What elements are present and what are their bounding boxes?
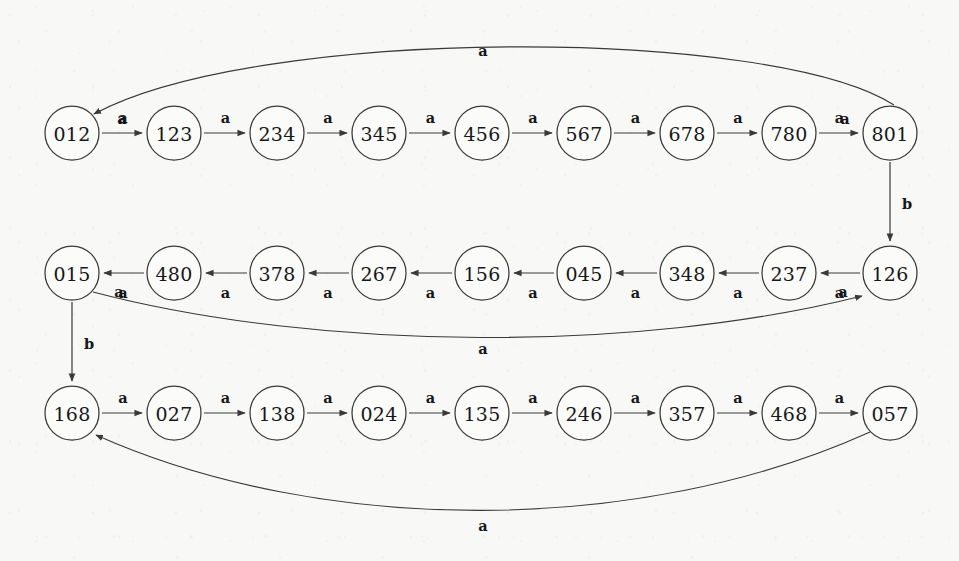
state-node-378[interactable]: 378 (250, 246, 304, 300)
state-node-label: 168 (54, 403, 91, 425)
wrap-edge-801-to-012 (94, 47, 894, 114)
state-node-567[interactable]: 567 (557, 106, 611, 160)
state-node-label: 045 (566, 263, 603, 285)
wrap-edge-label-bottom: a (478, 517, 488, 534)
state-node-label: 126 (872, 263, 909, 285)
transition-label-a: a (221, 389, 231, 406)
state-node-label: 156 (464, 263, 501, 285)
state-diagram-svg: 0121232343454565676787808010154803782671… (0, 0, 959, 561)
state-node-357[interactable]: 357 (660, 386, 714, 440)
state-node-label: 123 (156, 123, 193, 145)
wrap-edge-label-middle: a (478, 340, 488, 357)
transition-label-a: a (426, 389, 436, 406)
transition-label-a: a (118, 389, 128, 406)
state-node-168[interactable]: 168 (45, 386, 99, 440)
state-node-234[interactable]: 234 (250, 106, 304, 160)
state-node-468[interactable]: 468 (762, 386, 816, 440)
state-node-678[interactable]: 678 (660, 106, 714, 160)
state-node-456[interactable]: 456 (455, 106, 509, 160)
state-node-012[interactable]: 012 (45, 106, 99, 160)
state-node-label: 138 (259, 403, 296, 425)
state-node-label: 027 (156, 403, 193, 425)
state-diagram-canvas: 0121232343454565676787808010154803782671… (0, 0, 959, 561)
transition-label-a: a (221, 109, 231, 126)
state-node-027[interactable]: 027 (147, 386, 201, 440)
state-node-780[interactable]: 780 (762, 106, 816, 160)
nodes-layer: 0121232343454565676787808010154803782671… (45, 106, 917, 440)
state-node-label: 357 (669, 403, 706, 425)
transition-label-a: a (323, 109, 333, 126)
state-node-123[interactable]: 123 (147, 106, 201, 160)
state-node-label: 780 (771, 123, 808, 145)
state-node-480[interactable]: 480 (147, 246, 201, 300)
state-node-label: 246 (566, 403, 603, 425)
state-node-801[interactable]: 801 (863, 106, 917, 160)
transition-label-a: a (733, 109, 743, 126)
drop-edge-label-b-left: b (84, 335, 94, 352)
state-node-348[interactable]: 348 (660, 246, 714, 300)
state-node-label: 468 (771, 403, 808, 425)
wrap-edge-057-to-168 (96, 432, 870, 510)
state-node-345[interactable]: 345 (352, 106, 406, 160)
state-node-267[interactable]: 267 (352, 246, 406, 300)
transition-label-a: a (323, 284, 333, 301)
transition-label-a: a (835, 389, 845, 406)
transition-label-a: a (528, 109, 538, 126)
transition-label-a: a (426, 109, 436, 126)
transition-label-a: a (733, 389, 743, 406)
state-node-label: 678 (669, 123, 706, 145)
transition-label-a: a (221, 284, 231, 301)
wrap-endpoint-label: a (840, 110, 850, 127)
transition-label-a: a (426, 284, 436, 301)
state-node-045[interactable]: 045 (557, 246, 611, 300)
state-node-237[interactable]: 237 (762, 246, 816, 300)
state-node-label: 057 (872, 403, 909, 425)
transition-label-a: a (528, 389, 538, 406)
wrap-endpoint-label: a (114, 283, 124, 300)
state-node-label: 801 (872, 123, 909, 145)
transition-label-a: a (528, 284, 538, 301)
state-node-label: 024 (361, 403, 398, 425)
state-node-label: 567 (566, 123, 603, 145)
state-node-135[interactable]: 135 (455, 386, 509, 440)
transition-label-a: a (631, 284, 641, 301)
state-node-label: 267 (361, 263, 398, 285)
drop-edge-label-b-right: b (902, 195, 912, 212)
state-node-015[interactable]: 015 (45, 246, 99, 300)
transition-label-a: a (631, 389, 641, 406)
state-node-label: 345 (361, 123, 398, 145)
state-node-label: 237 (771, 263, 808, 285)
wrap-endpoint-label: a (838, 283, 848, 300)
state-node-057[interactable]: 057 (863, 386, 917, 440)
state-node-label: 456 (464, 123, 501, 145)
state-node-label: 012 (54, 123, 91, 145)
state-node-label: 378 (259, 263, 296, 285)
wrap-edge-label-top: a (478, 42, 488, 59)
state-node-246[interactable]: 246 (557, 386, 611, 440)
transition-label-a: a (631, 109, 641, 126)
state-node-label: 135 (464, 403, 501, 425)
state-node-label: 234 (259, 123, 296, 145)
state-node-label: 348 (669, 263, 706, 285)
state-node-024[interactable]: 024 (352, 386, 406, 440)
state-node-label: 015 (54, 263, 91, 285)
transition-label-a: a (733, 284, 743, 301)
state-node-156[interactable]: 156 (455, 246, 509, 300)
transition-label-a: a (323, 389, 333, 406)
wrap-endpoint-label: a (117, 110, 127, 127)
state-node-126[interactable]: 126 (863, 246, 917, 300)
state-node-138[interactable]: 138 (250, 386, 304, 440)
state-node-label: 480 (156, 263, 193, 285)
